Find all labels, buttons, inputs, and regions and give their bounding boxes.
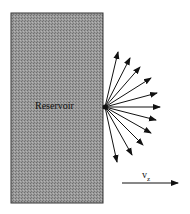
arrow — [105, 93, 157, 107]
velocity-subscript: z — [147, 175, 150, 183]
arrow — [105, 107, 117, 162]
emission-point — [103, 105, 108, 110]
arrow — [105, 107, 156, 120]
emission-arrows — [105, 52, 160, 162]
diagram-canvas — [0, 0, 190, 214]
arrow — [105, 107, 143, 145]
arrow — [105, 52, 118, 107]
velocity-label: vz — [142, 169, 150, 183]
reservoir-label: Reservoir — [35, 100, 74, 111]
